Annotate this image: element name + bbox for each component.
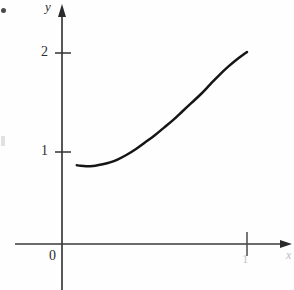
figure-canvas: y x 2 1 0 1 — [0, 0, 294, 290]
data-curve — [77, 52, 247, 166]
y-axis-arrow-icon — [58, 4, 66, 17]
y-axis-label: y — [45, 0, 51, 13]
origin-label: 0 — [49, 249, 56, 263]
y-tick-label-1: 1 — [41, 144, 48, 158]
y-tick-label-2: 2 — [41, 45, 48, 59]
x-tick-label-1: 1 — [242, 252, 249, 265]
x-axis-arrow-icon — [280, 240, 292, 248]
x-axis-label: x — [286, 249, 291, 261]
